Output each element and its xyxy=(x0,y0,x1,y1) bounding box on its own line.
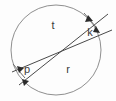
label-k: k xyxy=(87,26,93,38)
secant-line-lower xyxy=(19,14,108,85)
label-p: p xyxy=(24,63,30,75)
geometry-figure: t r k p xyxy=(0,0,116,101)
figure-canvas: t r k p xyxy=(0,0,116,101)
label-r: r xyxy=(66,63,70,75)
label-t: t xyxy=(51,19,54,31)
arrow-head-right-lower xyxy=(93,26,100,33)
